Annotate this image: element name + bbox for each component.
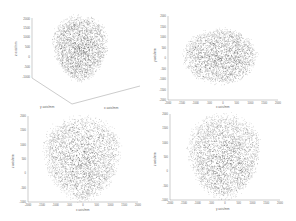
svg-text:2000: 2000 xyxy=(20,114,26,118)
svg-text:2000: 2000 xyxy=(162,112,168,116)
svg-text:500: 500 xyxy=(25,45,30,49)
svg-text:0: 0 xyxy=(224,201,226,205)
svg-text:-500: -500 xyxy=(21,186,27,190)
plot-top-view: -2000-1500-1000-500050010001500200020001… xyxy=(148,0,296,110)
svg-text:-500: -500 xyxy=(209,201,215,205)
svg-text:-500: -500 xyxy=(67,203,73,207)
plot-top-svg: -2000-1500-1000-500050010001500200020001… xyxy=(148,0,296,110)
svg-text:0: 0 xyxy=(28,55,30,59)
svg-text:0: 0 xyxy=(25,171,27,175)
svg-text:-1500: -1500 xyxy=(178,101,185,105)
svg-text:500: 500 xyxy=(164,155,169,159)
plot-front-svg: -2000-1500-1000-500050010001500200020001… xyxy=(0,110,148,221)
svg-text:y axis/mm: y axis/mm xyxy=(153,48,157,62)
svg-text:-1000: -1000 xyxy=(52,203,59,207)
svg-text:-500: -500 xyxy=(161,67,167,71)
svg-text:x axis/mm: x axis/mm xyxy=(216,105,230,109)
svg-text:-1000: -1000 xyxy=(192,101,199,105)
svg-text:-1000: -1000 xyxy=(159,77,166,81)
svg-text:-1000: -1000 xyxy=(22,75,30,79)
svg-text:z axis/mm: z axis/mm xyxy=(11,154,15,168)
svg-text:0: 0 xyxy=(165,56,167,60)
svg-text:-500: -500 xyxy=(163,184,169,188)
plot-side-view: -2000-1500-1000-500050010001500200020001… xyxy=(148,110,296,221)
svg-text:-1000: -1000 xyxy=(19,200,26,204)
svg-text:500: 500 xyxy=(237,201,242,205)
svg-text:1500: 1500 xyxy=(162,126,168,130)
point-cloud xyxy=(186,112,260,200)
svg-text:1500: 1500 xyxy=(23,26,30,30)
svg-text:0: 0 xyxy=(167,169,169,173)
svg-text:-2000: -2000 xyxy=(159,98,166,102)
svg-text:500: 500 xyxy=(22,157,27,161)
svg-text:-500: -500 xyxy=(207,101,213,105)
svg-text:1000: 1000 xyxy=(108,203,114,207)
plot-side-svg: -2000-1500-1000-500050010001500200020001… xyxy=(148,110,296,221)
svg-text:1000: 1000 xyxy=(250,201,256,205)
svg-text:1000: 1000 xyxy=(162,141,168,145)
svg-text:500: 500 xyxy=(162,46,167,50)
point-cloud xyxy=(182,27,259,85)
svg-text:y axis/mm: y axis/mm xyxy=(216,207,230,211)
point-cloud xyxy=(52,14,108,82)
svg-text:1000: 1000 xyxy=(20,143,26,147)
svg-text:2000: 2000 xyxy=(275,101,281,105)
svg-text:500: 500 xyxy=(95,203,100,207)
svg-text:-1500: -1500 xyxy=(38,203,45,207)
svg-text:2000: 2000 xyxy=(277,201,283,205)
svg-text:0: 0 xyxy=(82,203,84,207)
svg-text:1000: 1000 xyxy=(248,101,254,105)
svg-text:-1000: -1000 xyxy=(194,201,201,205)
svg-text:500: 500 xyxy=(235,101,240,105)
svg-text:2000: 2000 xyxy=(23,17,30,21)
svg-text:2000: 2000 xyxy=(135,203,141,207)
svg-text:1000: 1000 xyxy=(23,35,30,39)
point-cloud xyxy=(43,115,123,203)
plot-3d-svg: 2000 1500 1000 500 0 -500 -1000 z axis/m… xyxy=(0,0,148,110)
svg-text:1500: 1500 xyxy=(263,201,269,205)
plot-3d-view: 2000 1500 1000 500 0 -500 -1000 z axis/m… xyxy=(0,0,148,110)
svg-text:1500: 1500 xyxy=(261,101,267,105)
svg-text:-1500: -1500 xyxy=(180,201,187,205)
svg-text:1000: 1000 xyxy=(160,35,166,39)
svg-text:1500: 1500 xyxy=(121,203,127,207)
svg-text:z axis/mm: z axis/mm xyxy=(153,152,157,166)
z-axis-label: z axis/mm xyxy=(14,41,18,56)
plot-front-view: -2000-1500-1000-500050010001500200020001… xyxy=(0,110,148,221)
svg-text:-1500: -1500 xyxy=(159,88,166,92)
svg-text:1500: 1500 xyxy=(20,128,26,132)
svg-text:-1000: -1000 xyxy=(161,198,168,202)
svg-text:x axis/mm: x axis/mm xyxy=(76,208,90,212)
svg-text:-500: -500 xyxy=(24,65,30,69)
y-axis-label: y axis/mm xyxy=(40,105,55,109)
svg-text:1500: 1500 xyxy=(160,25,166,29)
svg-text:2000: 2000 xyxy=(160,14,166,18)
